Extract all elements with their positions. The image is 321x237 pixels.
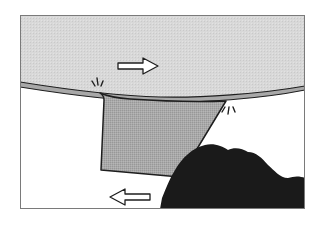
upper-plate [20,15,305,100]
diagram-canvas [0,0,321,237]
